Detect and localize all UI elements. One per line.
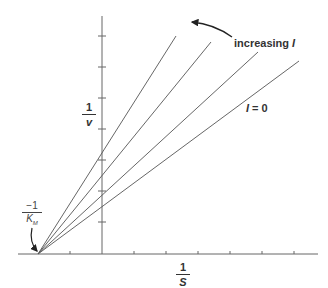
line-low-inhibitor [38,52,258,254]
increasing-arrow-icon [192,22,232,37]
data-lines [38,36,299,254]
line-no-inhibitor [38,61,299,254]
line-highest-inhibitor [38,36,176,254]
km-intercept-label: −1 KM [22,201,42,228]
line-higher-inhibitor [38,42,211,254]
increasing-inhibitor-label: increasing I [234,37,295,49]
no-inhibitor-label: I = 0 [246,102,268,114]
y-axis-label: 1 v [82,102,96,128]
km-arrow-icon [31,228,37,251]
x-axis-label: 1 S [176,262,190,288]
